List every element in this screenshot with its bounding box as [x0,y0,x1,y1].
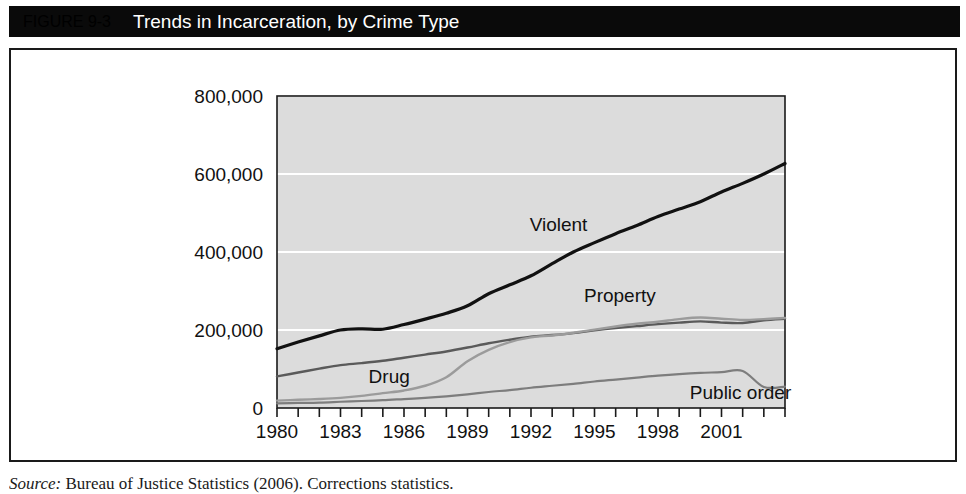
x-axis-tick-label: 2001 [700,421,742,442]
x-axis-tick-labels: 19801983198619891992199519982001 [256,421,743,442]
y-axis-tick-label: 400,000 [194,242,263,263]
y-axis-tick-labels: 0200,000400,000600,000800,000 [194,86,263,419]
x-axis-tick-label: 1989 [446,421,488,442]
x-axis-tick-label: 1980 [256,421,298,442]
series-label-property: Property [584,285,656,306]
y-axis-tick-label: 800,000 [194,86,263,107]
y-axis-tick-label: 200,000 [194,320,263,341]
series-label-violent: Violent [530,214,588,235]
x-axis-tick-label: 1992 [510,421,552,442]
source-caption: Source: Bureau of Justice Statistics (20… [9,474,949,494]
x-axis-tick-label: 1986 [383,421,425,442]
source-label: Source: [9,474,61,493]
x-axis-tick-label: 1998 [637,421,679,442]
y-axis-tick-label: 600,000 [194,164,263,185]
series-label-public-order: Public order [690,382,792,403]
x-axis-tick-label: 1983 [319,421,361,442]
source-text: Bureau of Justice Statistics (2006). Cor… [61,474,453,493]
series-label-drug: Drug [369,366,410,387]
x-axis-tick-label: 1995 [573,421,615,442]
y-axis-tick-label: 0 [252,398,263,419]
x-axis-ticks [277,408,785,417]
